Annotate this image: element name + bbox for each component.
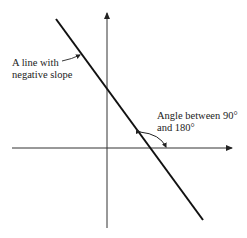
- angle-label-line-2: and 180°: [157, 122, 238, 134]
- angle-label-line-1: Angle between 90°: [157, 110, 238, 122]
- angle-label: Angle between 90° and 180°: [157, 110, 238, 133]
- line-label: A line with negative slope: [12, 57, 72, 80]
- line-label-line-1: A line with: [12, 57, 72, 69]
- line-label-line-2: negative slope: [12, 69, 72, 81]
